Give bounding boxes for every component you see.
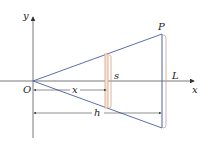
- s-label: s: [114, 70, 119, 81]
- l-brace: [163, 35, 166, 128]
- s-brace: [109, 55, 111, 108]
- y-axis-label: y: [22, 10, 29, 21]
- cone-diagram: y x O P s L x h: [0, 0, 209, 150]
- upper-edge: [33, 34, 162, 81]
- apex-label: P: [157, 21, 165, 32]
- l-label: L: [171, 70, 179, 81]
- x-axis-label: x: [192, 84, 198, 95]
- x-distance-label: x: [72, 84, 78, 95]
- origin-label: O: [23, 84, 31, 95]
- cross-section-strip: [105, 54, 108, 108]
- lower-edge: [33, 81, 162, 128]
- h-label: h: [94, 107, 100, 118]
